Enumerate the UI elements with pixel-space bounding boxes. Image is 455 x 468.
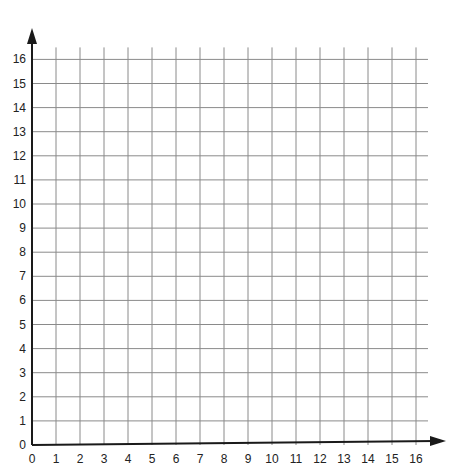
x-tick-label: 16 (409, 452, 423, 466)
y-tick-label: 6 (19, 293, 26, 307)
y-tick-label: 8 (19, 245, 26, 259)
x-tick-label: 14 (361, 452, 375, 466)
y-tick-label: 14 (13, 101, 27, 115)
y-tick-label: 4 (19, 342, 26, 356)
x-tick-label: 7 (197, 452, 204, 466)
x-tick-label: 4 (125, 452, 132, 466)
y-tick-label: 5 (19, 318, 26, 332)
y-tick-label: 9 (19, 221, 26, 235)
coordinate-grid: 012345678910111213141516 012345678910111… (0, 0, 455, 468)
axes (27, 28, 446, 446)
y-tick-label: 7 (19, 269, 26, 283)
y-axis-tick-labels: 012345678910111213141516 (13, 52, 27, 452)
x-tick-label: 12 (313, 452, 327, 466)
y-tick-label: 12 (13, 149, 27, 163)
x-tick-label: 3 (101, 452, 108, 466)
y-tick-label: 3 (19, 366, 26, 380)
y-tick-label: 0 (19, 438, 26, 452)
x-tick-label: 11 (290, 452, 303, 466)
x-axis-arrow-icon (430, 436, 446, 446)
x-axis (32, 441, 436, 445)
x-tick-label: 1 (53, 452, 60, 466)
y-tick-label: 16 (13, 52, 27, 66)
x-tick-label: 13 (337, 452, 351, 466)
x-tick-label: 10 (265, 452, 279, 466)
y-tick-label: 1 (19, 414, 26, 428)
x-tick-label: 2 (77, 452, 84, 466)
y-tick-label: 15 (13, 77, 27, 91)
x-tick-label: 0 (29, 452, 36, 466)
y-axis-arrow-icon (27, 28, 37, 44)
grid-lines (32, 47, 428, 445)
y-tick-label: 2 (19, 390, 26, 404)
y-tick-label: 13 (13, 125, 27, 139)
x-tick-label: 9 (245, 452, 252, 466)
x-axis-tick-labels: 012345678910111213141516 (29, 452, 423, 466)
y-tick-label: 10 (13, 197, 27, 211)
x-tick-label: 15 (385, 452, 399, 466)
x-tick-label: 6 (173, 452, 180, 466)
y-tick-label: 11 (14, 173, 27, 187)
x-tick-label: 5 (149, 452, 156, 466)
x-tick-label: 8 (221, 452, 228, 466)
